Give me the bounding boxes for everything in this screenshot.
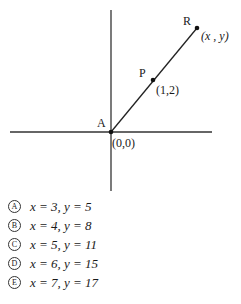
choice-c-text: x = 5, y = 11	[30, 235, 97, 254]
choice-a-text: x = 3, y = 5	[30, 197, 92, 216]
choice-d[interactable]: D x = 6, y = 15	[8, 254, 98, 273]
point-R	[195, 26, 200, 31]
choice-a-bubble[interactable]: A	[8, 200, 21, 213]
point-A-coord: (0,0)	[112, 137, 135, 149]
answer-choices: A x = 3, y = 5 B x = 4, y = 8 C x = 5, y…	[8, 197, 98, 292]
point-A-label: A	[97, 117, 106, 129]
point-P	[151, 78, 156, 83]
choice-e[interactable]: E x = 7, y = 17	[8, 273, 98, 292]
choice-d-text: x = 6, y = 15	[30, 254, 98, 273]
point-R-label: R	[183, 15, 191, 27]
point-R-coord: (x , y)	[201, 30, 229, 42]
choice-c[interactable]: C x = 5, y = 11	[8, 235, 98, 254]
choice-d-bubble[interactable]: D	[8, 257, 21, 270]
point-A	[109, 130, 114, 135]
choice-e-bubble[interactable]: E	[8, 276, 21, 289]
choice-b-bubble[interactable]: B	[8, 219, 21, 232]
choice-b[interactable]: B x = 4, y = 8	[8, 216, 98, 235]
choice-e-text: x = 7, y = 17	[30, 273, 98, 292]
point-P-coord: (1,2)	[156, 84, 179, 96]
choice-c-bubble[interactable]: C	[8, 238, 21, 251]
point-P-label: P	[139, 67, 146, 79]
choice-b-text: x = 4, y = 8	[30, 216, 92, 235]
choice-a[interactable]: A x = 3, y = 5	[8, 197, 98, 216]
